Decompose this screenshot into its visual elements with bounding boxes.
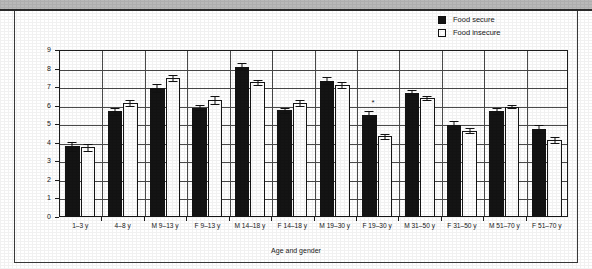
- y-tick-label: 7: [35, 83, 51, 90]
- bar-food-secure: [192, 108, 207, 217]
- bar-food-secure: [362, 115, 377, 217]
- bar-food-insecure: [208, 100, 223, 217]
- x-tick-label: M 14–18 y: [234, 222, 265, 229]
- x-tick-label: F 9–13 y: [195, 222, 221, 229]
- x-tick-mark: [483, 217, 484, 221]
- x-tick-mark: [314, 217, 315, 221]
- y-tick-label: 4: [35, 139, 51, 146]
- y-tick-mark: [55, 198, 59, 199]
- y-tick-label: 8: [35, 65, 51, 72]
- x-tick-mark: [186, 217, 187, 221]
- x-tick-mark: [441, 217, 442, 221]
- legend-swatch-filled-square: [438, 16, 446, 24]
- bar-food-secure: [235, 67, 250, 217]
- group-separator: [442, 51, 443, 216]
- x-tick-label: F 14–18 y: [278, 222, 307, 229]
- bar-food-insecure: [250, 82, 265, 217]
- group-separator: [527, 51, 528, 216]
- bar-food-insecure: [81, 147, 96, 217]
- group-separator: [357, 51, 358, 216]
- x-tick-mark: [144, 217, 145, 221]
- bar-food-insecure: [378, 136, 393, 217]
- bar-food-insecure: [547, 140, 562, 217]
- bar-food-secure: [532, 129, 547, 217]
- legend-label-food-secure: Food secure: [453, 16, 495, 24]
- y-tick-label: 9: [35, 46, 51, 53]
- x-tick-mark: [526, 217, 527, 221]
- gridline-horizontal: [60, 88, 567, 89]
- bar-food-insecure: [420, 98, 435, 217]
- bar-food-insecure: [335, 85, 350, 217]
- y-tick-mark: [55, 217, 59, 218]
- y-tick-label: 3: [35, 157, 51, 164]
- legend-label-food-insecure: Food insecure: [453, 29, 501, 37]
- bar-food-secure: [108, 111, 123, 217]
- bar-food-secure: [320, 81, 335, 217]
- legend-swatch-hollow-square: [438, 29, 446, 37]
- y-tick-label: 5: [35, 120, 51, 127]
- gridline-horizontal: [60, 70, 567, 71]
- y-tick-mark: [55, 143, 59, 144]
- significance-asterisk: *: [372, 99, 375, 107]
- legend-item-food-secure: Food secure: [438, 16, 501, 24]
- y-tick-label: 1: [35, 194, 51, 201]
- group-separator: [230, 51, 231, 216]
- y-tick-mark: [55, 87, 59, 88]
- bar-food-insecure: [505, 107, 520, 217]
- bar-food-secure: [150, 88, 165, 217]
- x-tick-mark: [356, 217, 357, 221]
- x-tick-mark: [271, 217, 272, 221]
- legend-item-food-insecure: Food insecure: [438, 29, 501, 37]
- bar-food-secure: [277, 110, 292, 217]
- y-tick-mark: [55, 69, 59, 70]
- bar-food-secure: [65, 146, 80, 217]
- x-tick-label: M 19–30 y: [319, 222, 350, 229]
- bar-food-secure: [489, 111, 504, 217]
- y-tick-label: 2: [35, 176, 51, 183]
- x-tick-label: F 31–50 y: [447, 222, 476, 229]
- bar-food-insecure: [462, 131, 477, 217]
- y-tick-mark: [55, 124, 59, 125]
- x-tick-label: M 31–50 y: [404, 222, 435, 229]
- bar-food-secure: [447, 125, 462, 217]
- x-tick-label: 1–3 y: [72, 222, 88, 229]
- y-tick-mark: [55, 50, 59, 51]
- y-tick-mark: [55, 106, 59, 107]
- y-tick-mark: [55, 180, 59, 181]
- x-axis-title: Age and gender: [271, 247, 321, 254]
- bar-food-insecure: [123, 103, 138, 217]
- group-separator: [272, 51, 273, 216]
- x-tick-label: 4–8 y: [115, 222, 131, 229]
- group-separator: [145, 51, 146, 216]
- scan-top-band: [0, 0, 592, 9]
- x-tick-mark: [398, 217, 399, 221]
- group-separator: [399, 51, 400, 216]
- x-tick-mark: [101, 217, 102, 221]
- group-separator: [484, 51, 485, 216]
- x-tick-label: F 51–70 y: [532, 222, 561, 229]
- bar-food-insecure: [293, 103, 308, 217]
- x-tick-label: M 51–70 y: [489, 222, 520, 229]
- group-separator: [102, 51, 103, 216]
- x-tick-label: F 19–30 y: [362, 222, 391, 229]
- x-tick-mark: [229, 217, 230, 221]
- y-tick-mark: [55, 161, 59, 162]
- chart-legend: Food secure Food insecure: [438, 16, 501, 42]
- bar-food-secure: [405, 93, 420, 217]
- x-tick-label: M 9–13 y: [151, 222, 178, 229]
- y-tick-label: 0: [35, 213, 51, 220]
- group-separator: [315, 51, 316, 216]
- group-separator: [187, 51, 188, 216]
- y-tick-label: 6: [35, 102, 51, 109]
- bar-food-insecure: [166, 78, 181, 217]
